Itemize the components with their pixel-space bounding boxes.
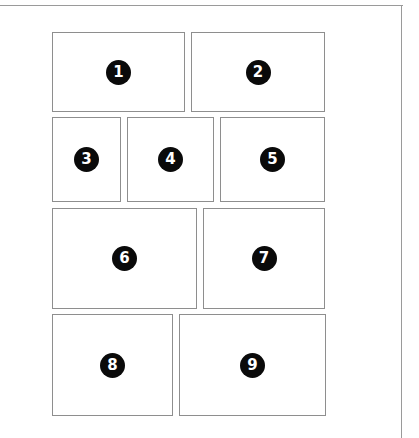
panel-1: 1 (52, 32, 185, 112)
panel-3: 3 (52, 117, 121, 202)
panel-number-badge: 4 (158, 147, 183, 172)
panel-number-badge: 9 (240, 353, 265, 378)
panel-8: 8 (52, 314, 173, 416)
panel-number-badge: 8 (100, 353, 125, 378)
page-top-border (0, 5, 403, 6)
panel-7: 7 (203, 208, 325, 309)
panel-number-badge: 5 (260, 147, 285, 172)
panel-number-badge: 6 (112, 246, 137, 271)
page-right-border (401, 5, 402, 438)
panel-9: 9 (179, 314, 326, 416)
panel-4: 4 (127, 117, 214, 202)
panel-number-badge: 2 (246, 60, 271, 85)
panel-number-badge: 1 (106, 60, 131, 85)
panel-2: 2 (191, 32, 325, 112)
panel-number-badge: 7 (252, 246, 277, 271)
panel-6: 6 (52, 208, 197, 309)
panel-5: 5 (220, 117, 325, 202)
panel-number-badge: 3 (74, 147, 99, 172)
